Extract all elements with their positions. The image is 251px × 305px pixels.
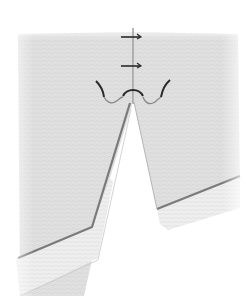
garment-vent-illustration (0, 0, 251, 305)
